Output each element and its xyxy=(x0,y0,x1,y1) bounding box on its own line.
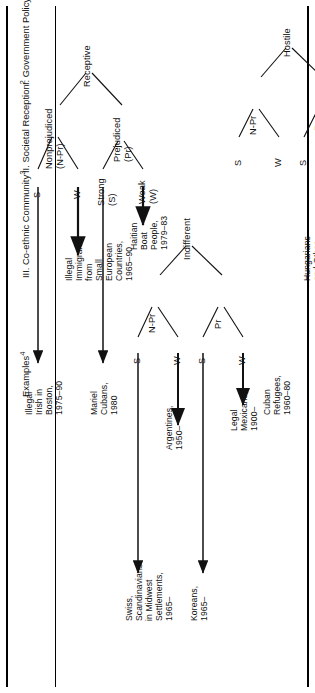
node-ind-npr-weak: W xyxy=(172,356,183,365)
node-ind-npr-strong: S xyxy=(132,358,143,364)
node-receptive-prejudiced: Prejudiced (Pr) xyxy=(112,118,133,162)
node-hos-pr-strong: S xyxy=(298,160,309,166)
node-ind-pr-strong: S xyxy=(197,358,208,364)
row-label-societal-reception: II. Societal Reception2 xyxy=(18,80,31,173)
node-indifferent: Indifferent xyxy=(182,218,193,260)
row-label-coethnic-community: III. Co-ethnic Community3 xyxy=(18,170,31,278)
example-legal-mexicans: Legal Mexicans, 1900– xyxy=(229,391,259,431)
node-hostile: Hostile xyxy=(282,28,293,57)
example-haitian-boat-people: Haitian Boat People, 1979–83 xyxy=(129,216,169,250)
rotated-figure-wrapper: Receptive Nonprejudiced (N-Pr) Prejudice… xyxy=(0,0,315,693)
node-ind-pr-weak: W xyxy=(237,356,248,365)
figure-page: Receptive Nonprejudiced (N-Pr) Prejudice… xyxy=(0,0,315,693)
tree-diagram: Receptive Nonprejudiced (N-Pr) Prejudice… xyxy=(0,0,315,693)
node-hostile-prejudiced: Pr xyxy=(313,122,315,131)
node-receptive-nonprejudiced: Nonprejudiced (N-Pr) xyxy=(44,108,65,169)
node-hos-npr-weak: W xyxy=(273,158,284,167)
example-mariel-cubans: Mariel Cubans, 1980 xyxy=(89,382,119,415)
node-rec-npr-weak: W xyxy=(72,190,83,199)
node-hostile-nonprejudiced: N-Pr xyxy=(248,116,259,135)
example-swiss-scandinavians: Swiss, Scandinavians in Midwest Settleme… xyxy=(124,564,174,621)
example-hungarians: Hungarians and Other Small East European… xyxy=(302,236,315,281)
row-label-examples: Examples4 xyxy=(18,351,31,397)
example-cuban-refugees: Cuban Refugees, 1960–80 xyxy=(262,375,292,415)
node-hos-npr-strong: S xyxy=(233,160,244,166)
example-illegal-immigrants-small-euro: Illegal Immigrants from Small European C… xyxy=(64,238,134,282)
node-indifferent-nonprejudiced: N-Pr xyxy=(147,314,158,333)
node-receptive: Receptive xyxy=(82,45,93,87)
node-indifferent-prejudiced: Pr xyxy=(213,320,224,329)
node-rec-pr-strong: Strong (S) xyxy=(96,178,117,206)
row-label-government-policy: I. Government Policy1 xyxy=(18,0,31,85)
example-argentines: Argentines, 1950– xyxy=(164,405,184,450)
example-koreans: Koreans, 1965– xyxy=(189,586,209,621)
node-rec-npr-strong: S xyxy=(32,192,43,198)
node-rec-pr-weak: Weak (W) xyxy=(137,180,158,204)
